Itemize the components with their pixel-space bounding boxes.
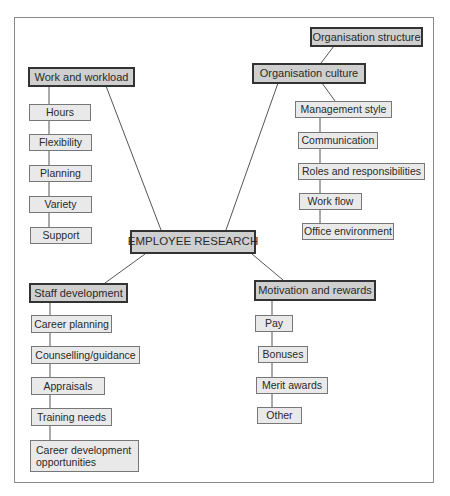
center-node: EMPLOYEE RESEARCH bbox=[130, 230, 256, 254]
item-pay: Pay bbox=[255, 315, 293, 332]
item-other: Other bbox=[257, 407, 302, 424]
item-appraisals: Appraisals bbox=[31, 377, 105, 395]
item-hours: Hours bbox=[29, 104, 91, 121]
node-organisation-structure: Organisation structure bbox=[310, 27, 423, 47]
item-management-style: Management style bbox=[295, 101, 392, 118]
item-flexibility: Flexibility bbox=[29, 134, 92, 151]
item-counselling-guidance: Counselling/guidance bbox=[31, 346, 140, 364]
item-support: Support bbox=[30, 227, 92, 244]
item-variety: Variety bbox=[29, 196, 92, 213]
item-career-development-opportunities: Career development opportunities bbox=[30, 440, 139, 472]
branch-staff-development: Staff development bbox=[29, 283, 128, 303]
item-merit-awards: Merit awards bbox=[256, 377, 328, 394]
item-communication: Communication bbox=[298, 132, 378, 149]
item-office-environment: Office environment bbox=[302, 223, 394, 240]
item-work-flow: Work flow bbox=[299, 193, 362, 210]
item-roles-and-responsibilities: Roles and responsibilities bbox=[298, 163, 425, 180]
item-bonuses: Bonuses bbox=[258, 346, 308, 363]
branch-work-and-workload: Work and workload bbox=[28, 67, 135, 87]
item-planning: Planning bbox=[29, 165, 92, 182]
item-career-planning: Career planning bbox=[31, 315, 112, 333]
branch-organisation-culture: Organisation culture bbox=[252, 63, 366, 84]
item-training-needs: Training needs bbox=[31, 408, 112, 426]
branch-motivation-and-rewards: Motivation and rewards bbox=[254, 280, 376, 301]
